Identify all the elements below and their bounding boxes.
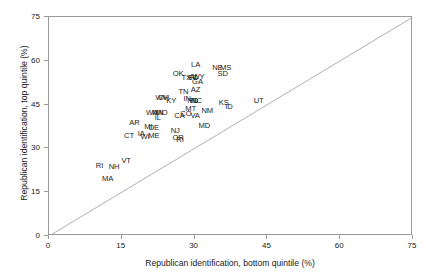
x-tick-label: 0 <box>46 241 50 250</box>
y-tick-mark <box>44 147 48 148</box>
data-point-label: LA <box>191 61 200 69</box>
scatter-plot-figure: LANEMSSDOKTXSCALWYGAAZTNWVOHKYINNDNCFLKS… <box>0 0 426 277</box>
data-point-label: KY <box>166 97 176 105</box>
data-point-label: NH <box>109 163 120 171</box>
data-point-label: ID <box>225 103 232 111</box>
data-point-label: IL <box>155 114 161 122</box>
data-point-label: ME <box>148 133 159 141</box>
data-point-label: DE <box>149 124 159 132</box>
y-tick-mark <box>44 235 48 236</box>
identity-line-icon <box>49 17 411 234</box>
y-tick-mark <box>44 16 48 17</box>
x-tick-mark <box>266 235 267 239</box>
data-point-label: CT <box>124 133 134 141</box>
plot-frame: LANEMSSDOKTXSCALWYGAAZTNWVOHKYINNDNCFLKS… <box>48 16 412 235</box>
x-tick-label: 60 <box>335 241 344 250</box>
x-tick-label: 15 <box>116 241 125 250</box>
x-tick-label: 45 <box>262 241 271 250</box>
data-point-label: AR <box>129 119 139 127</box>
x-tick-mark <box>48 235 49 239</box>
data-point-label: VA <box>190 112 199 120</box>
x-tick-label: 30 <box>189 241 198 250</box>
data-point-label: AZ <box>191 86 201 94</box>
x-axis-title: Republican identification, bottom quinti… <box>48 258 412 268</box>
x-tick-mark <box>412 235 413 239</box>
data-point-label: VT <box>121 157 131 165</box>
y-tick-mark <box>44 60 48 61</box>
x-tick-label: 75 <box>408 241 417 250</box>
data-point-label: RI <box>96 162 103 170</box>
data-point-label: NM <box>201 107 213 115</box>
data-point-label: SD <box>218 70 228 78</box>
plot-area: LANEMSSDOKTXSCALWYGAAZTNWVOHKYINNDNCFLKS… <box>49 17 411 234</box>
data-point-label: MA <box>102 176 113 184</box>
data-point-label: UT <box>254 98 264 106</box>
data-point-label: RI <box>176 136 183 144</box>
x-tick-mark <box>194 235 195 239</box>
y-tick-mark <box>44 104 48 105</box>
x-tick-mark <box>339 235 340 239</box>
y-tick-mark <box>44 191 48 192</box>
x-tick-mark <box>121 235 122 239</box>
y-axis-title: Republican identification, top quintile … <box>19 3 29 243</box>
data-point-label: MD <box>198 122 210 130</box>
